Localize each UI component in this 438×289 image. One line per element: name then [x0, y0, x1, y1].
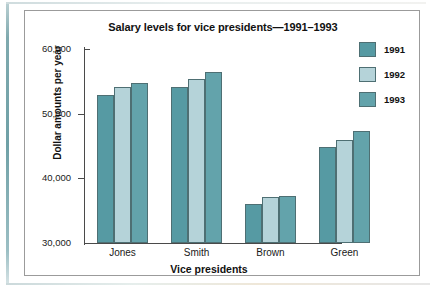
- y-tick-labels: 60,000 50,000 40,000 30,000: [17, 11, 71, 277]
- bar: [205, 72, 222, 243]
- y-tick-label: 60,000: [15, 43, 71, 54]
- left-accent-rule: [6, 4, 9, 285]
- bottom-divider: [6, 283, 430, 285]
- y-tick-label: 30,000: [15, 237, 71, 248]
- legend-swatch-icon: [359, 92, 376, 107]
- chart-panel: Salary levels for vice presidents—1991–1…: [24, 10, 420, 276]
- chart-title: Salary levels for vice presidents—1991–1…: [25, 21, 421, 33]
- x-axis-title: Vice presidents: [69, 263, 349, 275]
- bar: [353, 131, 370, 243]
- chart-legend: 199119921993: [359, 41, 417, 116]
- legend-label: 1993: [384, 94, 405, 105]
- bar: [171, 87, 188, 243]
- legend-swatch-icon: [359, 67, 376, 82]
- y-tick-label: 40,000: [15, 172, 71, 183]
- x-tick-label: Green: [300, 247, 390, 258]
- y-tick-label: 50,000: [15, 108, 71, 119]
- legend-label: 1992: [384, 69, 405, 80]
- legend-swatch-icon: [359, 42, 376, 57]
- bar-group: [171, 49, 222, 243]
- x-axis-line: [84, 243, 342, 244]
- bar: [97, 95, 114, 243]
- legend-item[interactable]: 1991: [359, 41, 417, 57]
- top-divider: [6, 2, 426, 4]
- bar: [131, 83, 148, 243]
- y-axis-tick: [78, 114, 85, 115]
- bar-group: [245, 49, 296, 243]
- bar: [319, 147, 336, 243]
- bar: [114, 87, 131, 243]
- bar: [188, 79, 205, 243]
- bar: [279, 196, 296, 243]
- legend-label: 1991: [384, 44, 405, 55]
- bar-group: [97, 49, 148, 243]
- bar: [245, 204, 262, 243]
- y-axis-tick: [78, 178, 85, 179]
- y-axis-title: Dollar amounts per year: [52, 23, 63, 183]
- legend-item[interactable]: 1992: [359, 66, 417, 82]
- legend-item[interactable]: 1993: [359, 91, 417, 107]
- plot-area: [85, 49, 337, 243]
- chart-page: Salary levels for vice presidents—1991–1…: [0, 0, 438, 289]
- bar: [336, 140, 353, 243]
- bar: [262, 197, 279, 243]
